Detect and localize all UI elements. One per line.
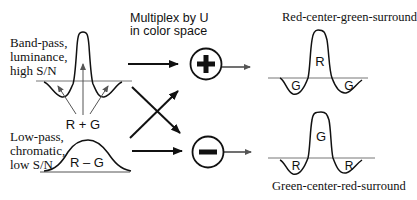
green-center-field: G R R — [268, 112, 375, 174]
top-surround-left: G — [291, 79, 300, 93]
top-surround-right: G — [344, 79, 353, 93]
plus-operator-icon — [191, 49, 222, 80]
bandpass-curve: R + G — [36, 32, 132, 132]
top-center-label: R — [315, 54, 324, 69]
lowpass-diff-label: R – G — [70, 155, 104, 170]
bottom-surround-left: R — [292, 159, 301, 173]
cross-arrow-up — [130, 91, 178, 138]
bottom-center-label: G — [316, 129, 326, 144]
minus-operator-icon — [193, 137, 224, 168]
bandpass-sum-label: R + G — [66, 117, 100, 132]
red-center-field: R G G — [268, 30, 368, 94]
bottom-surround-right: R — [345, 159, 354, 173]
lowpass-curve: R – G — [40, 140, 131, 172]
cross-arrow-down — [132, 87, 180, 133]
